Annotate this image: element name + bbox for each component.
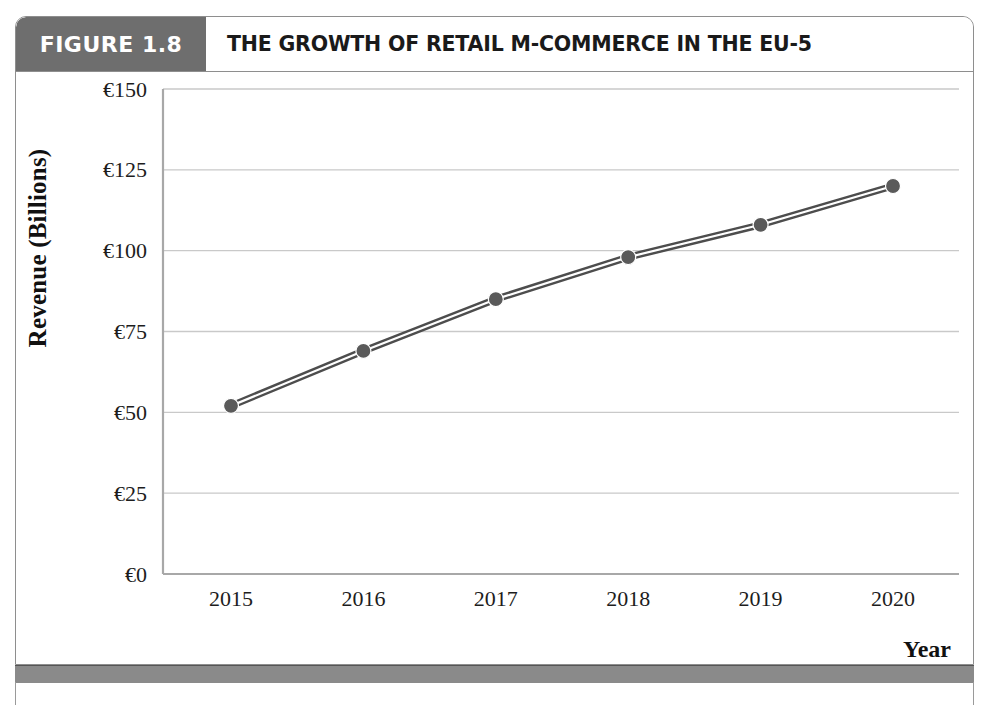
y-tick-label: €50 (114, 400, 147, 425)
y-tick-label: €0 (125, 562, 147, 587)
data-point-marker (621, 250, 636, 265)
series-lines-group (231, 186, 893, 406)
series-line (231, 186, 893, 406)
data-point-marker (886, 179, 901, 194)
data-point-marker (356, 343, 371, 358)
gridlines-group (163, 89, 959, 574)
x-tick-label: 2017 (474, 586, 518, 611)
series-line-split (231, 186, 893, 406)
chart-body: Revenue (Billions) Year €0€25€50€75€100€… (16, 72, 973, 665)
figure-frame: FIGURE 1.8 THE GROWTH OF RETAIL M-COMMER… (15, 16, 974, 665)
figure-header: FIGURE 1.8 THE GROWTH OF RETAIL M-COMMER… (16, 17, 973, 72)
data-point-marker (488, 292, 503, 307)
frame-stub-right (973, 682, 974, 705)
y-tick-labels-group: €0€25€50€75€100€125€150 (103, 77, 147, 587)
x-tick-label: 2018 (606, 586, 650, 611)
frame-stub-left (15, 682, 16, 705)
y-tick-label: €75 (114, 319, 147, 344)
data-point-marker (753, 217, 768, 232)
x-tick-label: 2020 (871, 586, 915, 611)
y-tick-label: €150 (103, 77, 147, 102)
y-tick-label: €25 (114, 481, 147, 506)
y-tick-label: €100 (103, 238, 147, 263)
x-tick-label: 2015 (209, 586, 253, 611)
x-tick-label: 2019 (739, 586, 783, 611)
line-chart-plot: €0€25€50€75€100€125€150 2015201620172018… (16, 72, 973, 665)
figure-number-tag: FIGURE 1.8 (16, 17, 206, 71)
data-point-marker (224, 398, 239, 413)
x-tick-labels-group: 201520162017201820192020 (209, 586, 915, 611)
y-tick-label: €125 (103, 157, 147, 182)
x-tick-label: 2016 (341, 586, 385, 611)
figure-root: FIGURE 1.8 THE GROWTH OF RETAIL M-COMMER… (0, 0, 994, 705)
figure-title: THE GROWTH OF RETAIL M-COMMERCE IN THE E… (206, 17, 973, 71)
figure-bottom-bar (15, 665, 974, 683)
